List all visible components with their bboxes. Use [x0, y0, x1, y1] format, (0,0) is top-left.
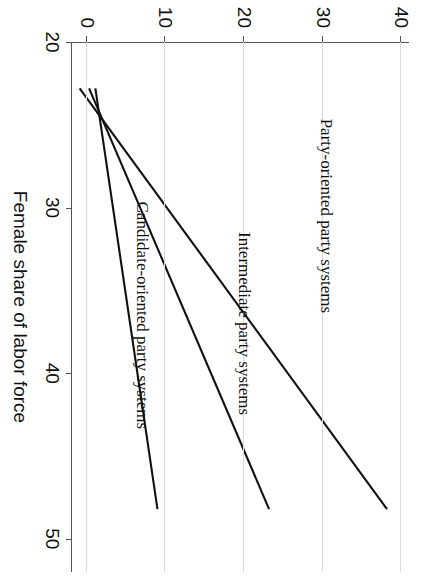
series-annotation: Intermediate party systems	[234, 232, 254, 415]
x-axis-line	[71, 42, 72, 572]
tick-label-x: 30	[41, 197, 63, 218]
tick-label-x: 40	[41, 363, 63, 384]
x-axis-title: Female share of labor force	[9, 191, 31, 423]
tick-label-y: 0	[76, 17, 98, 28]
figure-6-3: Female share of labor force Predicted sh…	[0, 0, 421, 587]
series-annotation: Party-oriented party systems	[316, 119, 336, 314]
tick-y	[322, 36, 323, 42]
tick-x	[66, 539, 72, 540]
series-annotation: Candidate-oriented party systems	[132, 202, 152, 430]
tick-x	[66, 373, 72, 374]
tick-label-y: 10	[154, 7, 176, 28]
rotated-chart-canvas: Female share of labor force Predicted sh…	[0, 0, 421, 587]
tick-label-y: 40	[390, 7, 412, 28]
y-axis-line	[71, 42, 409, 43]
tick-label-y: 20	[233, 7, 255, 28]
tick-label-y: 30	[312, 7, 334, 28]
tick-y	[164, 36, 165, 42]
tick-label-x: 50	[41, 528, 63, 549]
tick-label-x: 20	[41, 31, 63, 52]
gridline-y	[86, 42, 87, 572]
tick-x	[66, 208, 72, 209]
plot-area: Female share of labor force Predicted sh…	[71, 42, 409, 572]
tick-x	[66, 42, 72, 43]
tick-y	[243, 36, 244, 42]
gridline-y	[164, 42, 165, 572]
tick-y	[86, 36, 87, 42]
gridline-y	[400, 42, 401, 572]
tick-y	[400, 36, 401, 42]
